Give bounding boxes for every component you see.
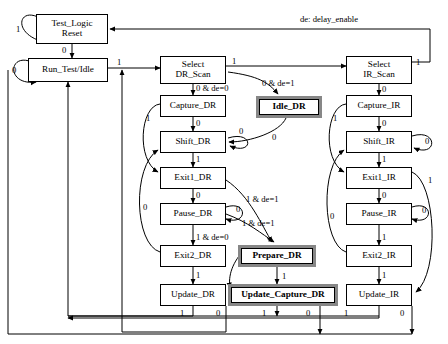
edge-label-exit1dr-pausedr: 0 [196, 191, 200, 200]
edge-label-capir-shiftir: 0 [382, 119, 386, 128]
edge-label-capdr-shiftdr: 0 [196, 119, 200, 128]
edge-label-rti-self: 0 [12, 66, 16, 75]
edge-label-updr-rti: 1 [180, 309, 184, 318]
state-exit1-ir[interactable]: Exit1_IR [346, 167, 412, 189]
state-label: Capture_DR [170, 101, 216, 111]
edge-label-shiftir-exit1ir: 1 [382, 155, 386, 164]
edge-label-selir-capir: 0 [382, 85, 386, 94]
edge-label-tlr-self: 1 [16, 25, 20, 34]
state-label: Idle_DR [272, 102, 305, 112]
state-exit2-ir[interactable]: Exit2_IR [346, 245, 412, 267]
state-label: Exit2_DR [174, 251, 211, 261]
state-label: Run_Test/Idle [42, 65, 94, 75]
state-update-ir[interactable]: Update_IR [346, 284, 412, 306]
edge-label-seldr-capdr: 0 & de=0 [196, 84, 229, 93]
edge-exit2dr-shiftdr [139, 150, 160, 252]
edge-idledr-shiftdr [229, 118, 286, 142]
edge-updr-rti [68, 82, 193, 316]
edge-label-selir-tlr: 1 [416, 58, 420, 67]
edge-label-prepdr-ucdr: 1 [282, 272, 286, 281]
edge-label-pausedr-exit2dr: 1 & de=0 [196, 233, 229, 242]
edge-label-exit1dr-prepdr: 1 & de=1 [246, 195, 279, 204]
edge-label-exit1ir-pauseir: 0 [382, 191, 386, 200]
state-label: Shift_DR [175, 137, 210, 147]
edge-label-exit1ir-upir: 1 [428, 176, 432, 185]
legend-delay-enable: de: delay_enable [300, 14, 358, 24]
edge-label-exit2ir-shiftir: 0 [330, 212, 334, 221]
state-label: Exit1_IR [362, 173, 396, 183]
edge-label-exit2ir-upir: 1 [382, 271, 386, 280]
state-label-2: Reset [62, 29, 82, 39]
state-label: Pause_DR [174, 209, 213, 219]
state-idle-dr[interactable]: Idle_DR [256, 96, 322, 118]
state-label: Pause_IR [361, 209, 396, 219]
state-capture-dr[interactable]: Capture_DR [160, 95, 226, 117]
edge-label-idledr-shiftdr: 0 [272, 133, 276, 142]
state-label: Update_Capture_DR [241, 290, 325, 300]
state-pause-dr[interactable]: Pause_DR [160, 203, 226, 225]
state-label-2: IR_Scan [363, 70, 395, 80]
edge-exit1ir-upir [412, 172, 432, 292]
state-label: Exit2_IR [362, 251, 396, 261]
state-update-capture-dr[interactable]: Update_Capture_DR [228, 284, 338, 306]
edge-label-upir-seldr: 0 [400, 309, 404, 318]
edge-label-shiftdr-self: 0 [239, 127, 243, 136]
edge-label-exit2dr-shiftdr: 0 [143, 203, 147, 212]
edge-label-pauseir-self: 0 [422, 206, 426, 215]
edge-label-shiftir-self: 0 [425, 137, 429, 146]
edge-capir-exit1ir [329, 104, 346, 172]
state-prepare-dr[interactable]: Prepare_DR [238, 245, 316, 267]
edge-label-upir-rti: 1 [344, 309, 348, 318]
state-machine-diagram: Test_Logic Reset Run_Test/Idle Select DR… [0, 0, 448, 344]
state-update-dr[interactable]: Update_DR [160, 284, 226, 306]
state-shift-dr[interactable]: Shift_DR [160, 131, 226, 153]
edge-exit1dr-prepdr [226, 180, 272, 242]
state-shift-ir[interactable]: Shift_IR [346, 131, 412, 153]
edge-label-ucdr-rti: 1 [262, 309, 266, 318]
state-pause-ir[interactable]: Pause_IR [346, 203, 412, 225]
state-exit2-dr[interactable]: Exit2_DR [160, 245, 226, 267]
state-capture-ir[interactable]: Capture_IR [346, 95, 412, 117]
edge-label-pauseir-exit2ir: 1 [382, 233, 386, 242]
edge-label-pausedr-self: 0 [236, 205, 240, 214]
edge-label-seldr-idledr: 0 & de=1 [262, 79, 295, 88]
state-select-ir-scan[interactable]: Select IR_Scan [346, 56, 412, 84]
state-run-test-idle[interactable]: Run_Test/Idle [28, 58, 108, 82]
edge-label-shiftdr-exit1dr: 1 [196, 155, 200, 164]
edge-label-pausedr-prepdr: 1 & de=1 [242, 219, 275, 228]
edge-label-rti-seldr: 1 [117, 58, 121, 67]
state-label: Exit1_DR [174, 173, 211, 183]
state-label: Capture_IR [358, 101, 401, 111]
edge-label-exit2dr-updr: 1 [196, 271, 200, 280]
edge-label-tlr-rti: 0 [62, 46, 66, 55]
state-label: Shift_IR [363, 137, 395, 147]
state-label-2: DR_Scan [175, 70, 210, 80]
state-exit1-dr[interactable]: Exit1_DR [160, 167, 226, 189]
state-test-logic-reset[interactable]: Test_Logic Reset [36, 14, 108, 44]
state-label: Update_IR [359, 290, 399, 300]
edge-label-capdr-exit1dr: 1 [146, 114, 150, 123]
edge-label-ucdr-seldr: 0 [306, 309, 310, 318]
edge-label-seldr-selir: 1 [232, 57, 236, 66]
state-label: Update_DR [171, 290, 215, 300]
state-select-dr-scan[interactable]: Select DR_Scan [160, 56, 226, 84]
state-label: Prepare_DR [252, 251, 301, 261]
edge-label-capir-exit1ir: 1 [333, 114, 337, 123]
edge-label-updr-seldr: 0 [216, 309, 220, 318]
